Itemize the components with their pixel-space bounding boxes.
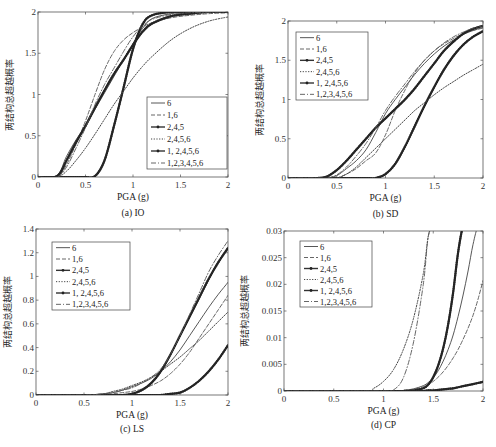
series-marker [112, 127, 114, 129]
series-marker [433, 87, 435, 89]
series-marker [445, 388, 447, 390]
subplot-a: 00.511.5200.511.52PGA (g)(a) IO两结构总超越概率6… [4, 7, 230, 219]
series-marker [147, 385, 149, 387]
series-marker [113, 124, 115, 126]
series-marker [201, 292, 203, 294]
series-marker [152, 380, 154, 382]
series-marker [145, 386, 147, 388]
series-marker [95, 104, 97, 106]
series-marker [133, 42, 135, 44]
series-marker [138, 35, 140, 37]
series-marker [71, 148, 73, 150]
series-marker [147, 394, 149, 396]
series-marker [151, 14, 153, 16]
series-marker [73, 144, 75, 146]
series-marker [61, 176, 63, 178]
series-marker [387, 115, 389, 117]
series-marker [436, 389, 438, 391]
series-marker [421, 78, 423, 80]
series-marker [396, 106, 398, 108]
series-marker [119, 64, 121, 66]
series-marker [429, 94, 431, 96]
series-marker [158, 373, 160, 375]
series-marker [426, 384, 428, 386]
series-marker [426, 71, 428, 73]
series-marker [417, 83, 419, 85]
series-marker [203, 288, 205, 290]
series-marker [109, 79, 111, 81]
series-marker [131, 45, 133, 47]
series-marker [167, 393, 169, 395]
legend-label: 6 [167, 98, 171, 108]
legend-label: 2,4,5,6 [316, 67, 339, 77]
series-marker [395, 161, 397, 163]
legend-label: 1, 2,4,5,6 [316, 78, 348, 88]
x-tick-label: 1.5 [174, 398, 186, 408]
series-marker [143, 21, 145, 23]
series-marker [424, 74, 426, 76]
series-marker [404, 98, 406, 100]
series-marker [226, 248, 228, 250]
series-marker [159, 12, 161, 14]
series-marker [153, 21, 155, 23]
series-marker [339, 166, 341, 168]
series-marker [414, 389, 416, 391]
series-marker [219, 356, 221, 358]
series-marker [100, 166, 102, 168]
y-tick-label: 0 [30, 390, 35, 400]
series-marker [126, 53, 128, 55]
series-marker [138, 394, 140, 396]
series-marker [212, 365, 214, 367]
series-marker [434, 371, 436, 373]
series-marker [62, 166, 64, 168]
y-tick-label: 1 [32, 90, 37, 100]
series-marker [180, 391, 182, 393]
y-axis-label: 两结构总超越概率 [2, 276, 13, 348]
series-marker [72, 146, 74, 148]
series-marker [221, 353, 223, 355]
series-marker [458, 242, 460, 244]
series-marker [368, 134, 370, 136]
series-marker [195, 382, 197, 384]
series-marker [432, 89, 434, 91]
series-marker [204, 286, 206, 288]
legend-label: 2,4,5 [316, 55, 333, 65]
series-marker [326, 175, 328, 177]
series-marker [451, 57, 453, 59]
series-marker [332, 172, 334, 174]
series-marker [401, 152, 403, 154]
series-marker [456, 259, 458, 261]
series-marker [455, 268, 457, 270]
series-marker [399, 156, 401, 158]
series-marker [459, 240, 461, 242]
series-marker [469, 384, 471, 386]
series-marker [463, 43, 465, 45]
series-marker [168, 11, 170, 13]
series-marker [193, 384, 195, 386]
series-marker [198, 379, 200, 381]
series-marker [125, 394, 127, 396]
series-marker [330, 173, 332, 175]
series-marker [423, 387, 425, 389]
series-marker [140, 33, 142, 35]
series-marker [182, 390, 184, 392]
series-marker [101, 94, 103, 96]
series-marker [104, 158, 106, 160]
series-marker [213, 268, 215, 270]
series-marker [412, 128, 414, 130]
series-marker [445, 333, 447, 335]
x-tick-label: 2 [481, 394, 486, 404]
legend-label: 1,6 [167, 110, 178, 120]
legend-marker [306, 59, 309, 62]
y-tick-label: 0.5 [275, 134, 287, 144]
y-tick-label: 0.6 [23, 319, 35, 329]
series-marker [454, 53, 456, 55]
series-marker [352, 152, 354, 154]
series-marker [415, 122, 417, 124]
series-marker [149, 24, 151, 26]
series-marker [459, 238, 461, 240]
series-marker [106, 150, 108, 152]
series-marker [213, 363, 215, 365]
series-marker [443, 344, 445, 346]
series-marker [353, 177, 355, 179]
